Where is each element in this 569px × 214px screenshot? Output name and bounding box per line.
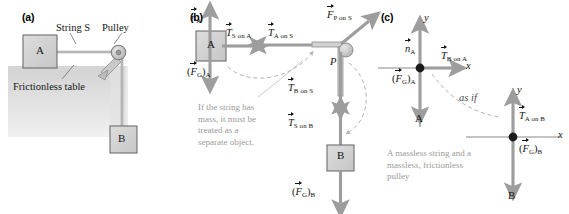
panel-c-label-gravity-on-a: (FG)A (392, 73, 416, 85)
panel-a-table-label: Frictionless table (13, 81, 85, 92)
panel-b-note: If the string has mass, it must be treat… (198, 102, 294, 148)
panel-a-block-a-label: A (36, 45, 44, 57)
panel-c-object-b-label: B (508, 190, 515, 202)
panel-b-pulley-point-label: P (330, 56, 336, 67)
panel-b-label-force-p-on-s: FP on S (327, 9, 352, 21)
panel-c-note: A massless string and a massless, fricti… (387, 148, 495, 183)
panel-c-as-if-label: as if (459, 92, 477, 103)
panel-b-block-a-label: A (207, 39, 215, 51)
panel-letter-c: (c) (381, 11, 393, 23)
panel-c-label-normal-on-a: nA (405, 43, 415, 55)
panel-a-string-label: String S (56, 22, 90, 33)
panel-a-pulley-label: Pulley (102, 22, 129, 33)
panel-b-block-b-label: B (337, 150, 344, 162)
physics-figure: (a) (b) (c) A B String S Pulley Friction… (0, 0, 569, 214)
panel-c-b-axis-y-label: y (517, 84, 522, 95)
panel-b-label-tension-s-on-a: TS on A (226, 27, 251, 39)
panel-letter-a: (a) (22, 11, 34, 23)
panel-b-label-gravity-on-a: (FG)A (187, 66, 211, 78)
panel-a-block-b-label: B (118, 133, 125, 145)
panel-b-label-gravity-on-b: (FG)B (292, 186, 315, 198)
panel-c-label-gravity-on-b: (FG)B (519, 143, 542, 155)
panel-b-label-tension-b-on-s: TB on S (288, 82, 313, 94)
panel-c-label-tension-b-on-a: TB on A (441, 50, 467, 62)
panel-c-b-axis-x-label: x (558, 129, 563, 140)
panel-c-a-axis-y-label: y (424, 12, 429, 23)
panel-b-label-normal-on-a: nA (191, 12, 201, 24)
panel-c-label-tension-a-on-b: TA on B (519, 110, 545, 122)
panel-c-object-a-label: A (415, 113, 423, 125)
panel-b-label-tension-a-on-s: TA on S (268, 27, 293, 39)
